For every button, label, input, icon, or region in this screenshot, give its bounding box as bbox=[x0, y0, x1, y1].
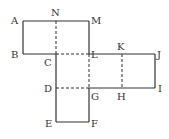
label-H: H bbox=[117, 91, 126, 102]
label-C: C bbox=[44, 57, 52, 68]
label-D: D bbox=[44, 83, 52, 94]
vertex-labels: A N M B C L K J D G H I E F bbox=[10, 7, 162, 129]
label-B: B bbox=[11, 49, 18, 60]
label-E: E bbox=[45, 118, 52, 129]
label-J: J bbox=[156, 49, 161, 60]
label-G: G bbox=[91, 91, 99, 102]
label-I: I bbox=[158, 83, 162, 94]
label-F: F bbox=[91, 118, 98, 129]
label-M: M bbox=[91, 15, 101, 26]
label-K: K bbox=[117, 41, 125, 52]
label-A: A bbox=[10, 15, 19, 26]
cube-net-diagram: A N M B C L K J D G H I E F bbox=[0, 0, 169, 139]
label-N: N bbox=[51, 7, 60, 18]
label-L: L bbox=[91, 49, 98, 60]
